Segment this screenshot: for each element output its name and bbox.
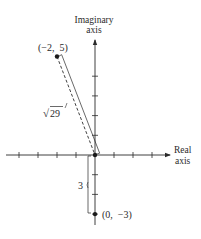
axis-ticks xyxy=(19,76,152,214)
complex-plane-diagram: Imaginary axis Real axis (−2, 5) (0, −3)… xyxy=(0,0,201,239)
point-0-neg3 xyxy=(93,212,97,216)
dimension-bracket-3 xyxy=(88,156,91,213)
real-axis-label-line1: Real xyxy=(174,145,192,155)
distance-label-sqrt-symbol: √ xyxy=(43,107,50,119)
point-neg2-5 xyxy=(55,54,59,58)
dashed-segment-to-point xyxy=(57,57,95,156)
distance-label-sqrt29: 29 xyxy=(50,108,60,119)
origin-point xyxy=(93,153,97,157)
distance-label-3: 3 xyxy=(78,180,83,191)
point-label-neg2-5: (−2, 5) xyxy=(38,42,68,54)
dimension-tick-sqrt29 xyxy=(65,103,67,108)
dimension-line-sqrt29 xyxy=(56,55,100,155)
real-axis-label-line2: axis xyxy=(175,156,191,166)
imaginary-axis-label-line2: axis xyxy=(86,25,102,35)
imaginary-axis-label-line1: Imaginary xyxy=(74,15,113,25)
point-label-0-neg3: (0, −3) xyxy=(102,209,132,221)
